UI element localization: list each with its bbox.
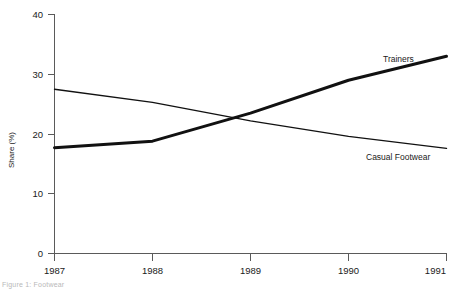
y-axis-ticks	[48, 15, 55, 254]
y-tick-label-40: 40	[32, 9, 43, 20]
series-label-casual-footwear: Casual Footwear	[366, 152, 430, 162]
series-line-casual-footwear	[55, 89, 447, 148]
line-chart: 40 30 20 10 0 Share (%) 1987 1988 1989 1…	[0, 0, 466, 290]
series-label-trainers: Trainers	[383, 54, 414, 64]
y-tick-label-0: 0	[38, 248, 43, 259]
series-line-trainers	[55, 56, 447, 147]
x-tick-label-1987: 1987	[44, 265, 65, 276]
x-tick-label-1990: 1990	[338, 265, 359, 276]
y-tick-label-20: 20	[32, 129, 43, 140]
y-tick-label-30: 30	[32, 69, 43, 80]
x-tick-label-1988: 1988	[142, 265, 163, 276]
x-tick-label-1989: 1989	[240, 265, 261, 276]
x-axis-ticks	[55, 254, 447, 262]
chart-container: 40 30 20 10 0 Share (%) 1987 1988 1989 1…	[0, 0, 466, 290]
figure-caption: Figure 1: Footwear	[2, 281, 64, 288]
y-tick-label-10: 10	[32, 188, 43, 199]
y-axis-title: Share (%)	[7, 132, 16, 168]
x-tick-label-1991: 1991	[425, 265, 446, 276]
